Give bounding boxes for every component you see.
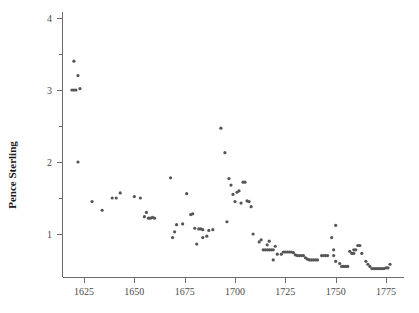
data-point xyxy=(115,196,118,199)
data-point xyxy=(153,217,156,220)
y-axis-ticks: 1234 xyxy=(47,13,63,240)
data-point xyxy=(74,88,77,91)
data-point xyxy=(326,254,329,257)
data-point xyxy=(386,266,389,269)
data-point xyxy=(78,87,81,90)
data-point xyxy=(169,176,172,179)
scatter-chart: Pence Sterling 1234 16251650167517001725… xyxy=(0,0,419,313)
data-point xyxy=(111,196,114,199)
data-point xyxy=(274,245,277,248)
data-point xyxy=(205,235,208,238)
data-point xyxy=(330,236,333,239)
y-tick-label: 2 xyxy=(47,157,52,168)
data-point xyxy=(334,224,337,227)
data-point xyxy=(243,181,246,184)
data-point xyxy=(364,260,367,263)
data-point xyxy=(76,74,79,77)
data-point xyxy=(334,260,337,263)
data-point xyxy=(268,240,271,243)
data-point xyxy=(338,262,341,265)
data-point xyxy=(332,254,335,257)
data-point xyxy=(143,215,146,218)
data-point xyxy=(173,230,176,233)
x-tick-label: 1700 xyxy=(225,286,245,297)
data-point xyxy=(191,212,194,215)
data-point xyxy=(211,228,214,231)
data-point xyxy=(185,192,188,195)
y-axis-title-text: Pence Sterling xyxy=(6,141,18,209)
data-point xyxy=(239,201,242,204)
x-tick-label: 1625 xyxy=(74,286,94,297)
data-point xyxy=(266,243,269,246)
data-point xyxy=(272,258,275,261)
data-points xyxy=(70,60,391,271)
data-point xyxy=(201,236,204,239)
x-tick-label: 1750 xyxy=(326,286,346,297)
data-point xyxy=(227,177,230,180)
data-point xyxy=(354,248,357,251)
x-tick-label: 1675 xyxy=(175,286,195,297)
data-point xyxy=(237,189,240,192)
data-point xyxy=(247,200,250,203)
data-point xyxy=(90,200,93,203)
data-point xyxy=(119,191,122,194)
data-point xyxy=(72,60,75,63)
data-point xyxy=(358,244,361,247)
data-point xyxy=(272,248,275,251)
y-tick-label: 1 xyxy=(47,229,52,240)
data-point xyxy=(388,263,391,266)
data-point xyxy=(195,242,198,245)
data-point xyxy=(252,232,255,235)
data-point xyxy=(233,200,236,203)
x-axis-ticks: 1625165016751700172517501775 xyxy=(74,278,396,298)
data-point xyxy=(76,160,79,163)
data-point xyxy=(101,209,104,212)
data-point xyxy=(332,248,335,251)
data-point xyxy=(225,220,228,223)
data-point xyxy=(229,183,232,186)
data-point xyxy=(139,196,142,199)
data-point xyxy=(133,195,136,198)
data-point xyxy=(276,253,279,256)
data-point xyxy=(346,265,349,268)
data-point xyxy=(360,252,363,255)
data-point xyxy=(181,222,184,225)
data-point xyxy=(250,205,253,208)
x-tick-label: 1725 xyxy=(275,286,295,297)
data-point xyxy=(219,127,222,130)
data-point xyxy=(260,238,263,241)
data-point xyxy=(201,228,204,231)
data-point xyxy=(352,252,355,255)
data-point xyxy=(231,193,234,196)
data-point xyxy=(316,258,319,261)
y-tick-label: 3 xyxy=(47,85,52,96)
data-point xyxy=(193,227,196,230)
plot-area: Pence Sterling 1234 16251650167517001725… xyxy=(0,0,419,313)
x-tick-label: 1650 xyxy=(124,286,144,297)
data-point xyxy=(171,236,174,239)
axis-lines xyxy=(63,12,405,278)
y-tick-label: 4 xyxy=(47,13,52,24)
y-axis-title: Pence Sterling xyxy=(6,141,18,209)
data-point xyxy=(223,151,226,154)
data-point xyxy=(175,223,178,226)
data-point xyxy=(207,229,210,232)
x-tick-label: 1775 xyxy=(376,286,396,297)
data-point xyxy=(145,211,148,214)
